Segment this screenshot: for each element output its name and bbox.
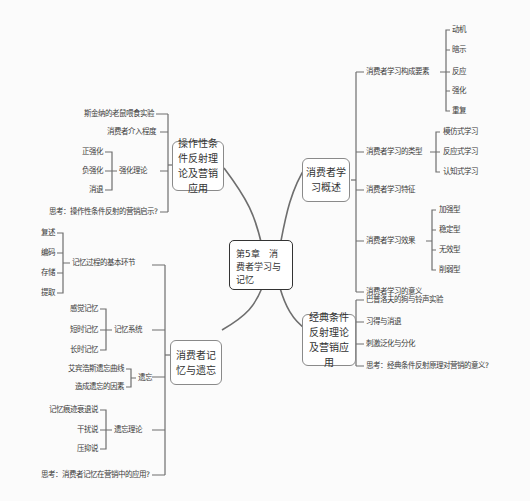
- item-memory-process[interactable]: 记忆过程的基本环节: [72, 258, 135, 268]
- item-forgetting-factors[interactable]: 造成遗忘的因素: [20, 382, 124, 392]
- item-repetition[interactable]: 重复: [452, 106, 466, 116]
- node-memory-forgetting[interactable]: 消费者记忆与遗忘: [170, 340, 222, 385]
- node-operant-label: 操作性条件反射理论及营销应用: [175, 136, 221, 196]
- item-short-term-memory[interactable]: 短时记忆: [40, 325, 98, 335]
- item-repression[interactable]: 压抑说: [20, 444, 98, 454]
- item-storage[interactable]: 存储: [10, 268, 55, 278]
- item-positive-reinforcement[interactable]: 正强化: [50, 147, 103, 157]
- item-motive[interactable]: 动机: [452, 25, 466, 35]
- item-rehearsal[interactable]: 复述: [10, 228, 55, 238]
- item-consumer-involvement[interactable]: 消费者介入程度: [20, 127, 156, 137]
- item-imitative-learning[interactable]: 模仿式学习: [443, 127, 478, 137]
- item-cue[interactable]: 暗示: [452, 45, 466, 55]
- item-stable-type[interactable]: 稳定型: [439, 225, 460, 235]
- item-sensory-memory[interactable]: 感觉记忆: [40, 304, 98, 314]
- central-topic-node[interactable]: 第5章 消费者学习与记忆: [229, 240, 293, 290]
- item-reinforcement-theory[interactable]: 强化理论: [119, 166, 147, 176]
- node-learning-overview[interactable]: 消费者学习概述: [302, 158, 350, 202]
- item-reactive-learning[interactable]: 反应式学习: [443, 147, 478, 157]
- item-forgetting[interactable]: 遗忘: [138, 373, 152, 383]
- item-weakened-type[interactable]: 削弱型: [439, 265, 460, 275]
- node-operant-conditioning[interactable]: 操作性条件反射理论及营销应用: [172, 141, 224, 191]
- item-strengthened-type[interactable]: 加强型: [439, 205, 460, 215]
- central-topic-label: 第5章 消费者学习与记忆: [236, 249, 281, 285]
- item-generalization-discrimination[interactable]: 刺激泛化与分化: [366, 339, 415, 349]
- node-classical-label: 经典条件反射理论及营销应用: [305, 310, 353, 370]
- item-learning-types[interactable]: 消费者学习的类型: [366, 147, 422, 157]
- item-pavlov-experiment[interactable]: 巴普洛夫的狗与铃声实验: [366, 295, 443, 305]
- node-classical-conditioning[interactable]: 经典条件反射理论及营销应用: [302, 314, 356, 366]
- item-trace-decay[interactable]: 记忆痕迹衰退说: [20, 405, 98, 415]
- item-negative-reinforcement[interactable]: 负强化: [50, 166, 103, 176]
- item-long-term-memory[interactable]: 长时记忆: [40, 345, 98, 355]
- item-acquisition-extinction[interactable]: 习得与消退: [366, 317, 401, 327]
- item-learning-elements[interactable]: 消费者学习构成要素: [366, 67, 429, 77]
- item-learning-effects[interactable]: 消费者学习效果: [366, 236, 415, 246]
- item-interference[interactable]: 干扰说: [20, 425, 98, 435]
- item-reinforcement[interactable]: 强化: [452, 86, 466, 96]
- item-skinner-experiment[interactable]: 斯金纳的老鼠喂食实验: [20, 109, 154, 119]
- item-memory-system[interactable]: 记忆系统: [114, 325, 142, 335]
- item-learning-features[interactable]: 消费者学习特征: [366, 185, 415, 195]
- item-ebbinghaus-curve[interactable]: 艾宾浩斯遗忘曲线: [20, 364, 124, 374]
- item-ineffective-type[interactable]: 无效型: [439, 245, 460, 255]
- node-memory-label: 消费者记忆与遗忘: [173, 348, 219, 378]
- item-retrieval[interactable]: 提取: [10, 288, 55, 298]
- item-classical-think[interactable]: 思考：经典条件反射原理对营销的意义?: [366, 361, 489, 371]
- item-operant-think[interactable]: 思考：操作性条件反射的营销启示?: [20, 207, 158, 217]
- item-forgetting-theory[interactable]: 遗忘理论: [114, 425, 142, 435]
- item-memory-think[interactable]: 思考：消费者记忆在营销中的应用?: [10, 470, 150, 480]
- node-learning-label: 消费者学习概述: [305, 165, 347, 195]
- item-response[interactable]: 反应: [452, 67, 466, 77]
- item-cognitive-learning[interactable]: 认知式学习: [443, 167, 478, 177]
- mind-map-canvas: 第5章 消费者学习与记忆 操作性条件反射理论及营销应用 消费者记忆与遗忘 消费者…: [0, 0, 530, 501]
- item-extinction[interactable]: 消退: [50, 185, 103, 195]
- item-encoding[interactable]: 编码: [10, 248, 55, 258]
